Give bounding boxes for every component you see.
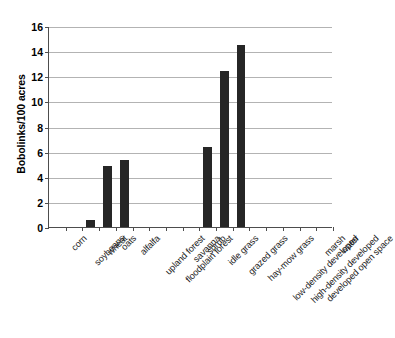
x-axis-tick — [333, 227, 334, 231]
bars-group — [49, 27, 332, 227]
x-axis-tick — [183, 227, 184, 231]
x-axis-tick — [116, 227, 117, 231]
plot-area: 0246810121416 — [48, 27, 332, 228]
y-tick-label: 4 — [37, 173, 43, 184]
x-axis-tick — [316, 227, 317, 231]
y-tick-label: 12 — [31, 72, 43, 83]
bar — [120, 160, 129, 227]
x-axis-tick — [99, 227, 100, 231]
x-axis-labels: cornsoybeanswheatoatsalfalfaupland fores… — [48, 232, 332, 338]
y-tick-label: 8 — [37, 122, 43, 133]
y-tick-label: 14 — [31, 47, 43, 58]
x-axis-tick — [249, 227, 250, 231]
x-tick-label: alfalfa — [139, 234, 162, 257]
x-axis-tick — [166, 227, 167, 231]
y-tick-label: 6 — [37, 147, 43, 158]
x-axis-tick — [66, 227, 67, 231]
bar — [86, 220, 95, 227]
y-tick-label: 2 — [37, 198, 43, 209]
x-axis-tick — [216, 227, 217, 231]
x-axis-tick — [199, 227, 200, 231]
bar — [103, 166, 112, 227]
y-tick-label: 0 — [37, 223, 43, 234]
x-axis-tick — [149, 227, 150, 231]
x-axis-tick — [233, 227, 234, 231]
x-axis-tick — [300, 227, 301, 231]
y-axis-title: Bobolinks/100 acres — [15, 39, 27, 209]
bar — [237, 45, 246, 227]
x-axis-tick — [266, 227, 267, 231]
x-tick-label: corn — [70, 234, 89, 253]
bar — [220, 71, 229, 227]
x-axis-tick — [283, 227, 284, 231]
x-axis-tick — [133, 227, 134, 231]
y-tick-label: 16 — [31, 22, 43, 33]
y-tick-label: 10 — [31, 97, 43, 108]
x-axis-tick — [82, 227, 83, 231]
bar — [203, 147, 212, 227]
